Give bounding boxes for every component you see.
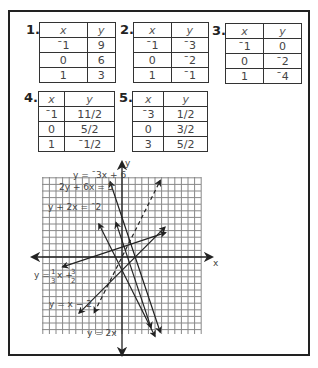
graph-line: [63, 233, 166, 267]
y-axis-label: y: [125, 158, 131, 168]
fraction-num-3: 3: [71, 268, 75, 276]
graph-line: [116, 223, 151, 328]
label-y-eq: y =: [34, 270, 50, 280]
label-y-eq-2x: y = 2x: [87, 328, 117, 338]
label-y-eq-x-minus-2: y = x − 2: [49, 299, 92, 309]
fraction-den-3: 3: [51, 277, 55, 285]
graph-line: [99, 224, 155, 336]
x-axis-label: x: [213, 258, 219, 268]
label-y-neg3x-plus-6: y = ˉ3x + 6: [73, 170, 126, 180]
fraction-den-2: 2: [71, 277, 75, 285]
label-2y-plus-6x-eq-5: 2y + 6x = 5: [59, 182, 113, 192]
coordinate-graph: x y y = ˉ3x + 6 2y + 6x = 5 y + 2x = ˉ2 …: [0, 0, 318, 368]
graph-line: [94, 180, 160, 312]
label-y-plus-2x-eq-neg2: y + 2x = ˉ2: [48, 202, 101, 212]
fraction-num-1: 1: [51, 268, 55, 276]
